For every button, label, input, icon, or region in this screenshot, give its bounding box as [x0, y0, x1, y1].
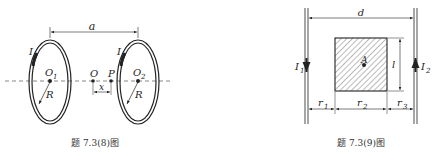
caption-right: 题 7.3(9)图 — [337, 138, 385, 148]
label-r2-sub: 2 — [362, 103, 368, 111]
figure-canvas: a I O 1 R O P x — [0, 0, 440, 157]
label-o1-sub: 1 — [53, 73, 57, 81]
coil-right: I O 2 R — [116, 40, 159, 124]
label-o2: O — [133, 67, 141, 78]
label-d: d — [358, 7, 364, 18]
figure-wires-square: I 1 I 2 d A l — [294, 7, 431, 148]
dimension-r: r 1 r 2 r 3 — [309, 92, 413, 114]
label-o2-sub: 2 — [140, 73, 146, 81]
dimension-a: a — [50, 20, 138, 38]
label-r-right: R — [134, 89, 143, 100]
label-l: l — [392, 59, 395, 70]
label-i2-sub: 2 — [425, 67, 431, 75]
label-p: P — [107, 68, 115, 79]
wire-right: I 2 — [414, 8, 431, 124]
dimension-d: d — [309, 7, 413, 18]
label-current-left: I — [28, 46, 34, 57]
label-o1: O — [45, 67, 53, 78]
label-a: a — [89, 20, 96, 33]
label-a-point: A — [360, 55, 368, 65]
label-current-right: I — [116, 46, 122, 57]
midpoint-markers: O P x — [90, 68, 115, 95]
dimension-l: l — [388, 38, 404, 91]
square-loop: A — [335, 38, 387, 91]
label-o: O — [90, 68, 98, 79]
wire-left: I 1 — [294, 8, 308, 124]
label-r3-sub: 3 — [403, 103, 408, 111]
coil-left: I O 1 R — [28, 40, 71, 124]
label-r-left: R — [45, 89, 54, 100]
figure-two-coils: a I O 1 R O P x — [5, 20, 172, 148]
label-i1-sub: 1 — [300, 67, 304, 75]
caption-left: 题 7.3(8)图 — [71, 138, 119, 148]
label-x: x — [99, 82, 104, 92]
label-r1-sub: 1 — [324, 103, 328, 111]
